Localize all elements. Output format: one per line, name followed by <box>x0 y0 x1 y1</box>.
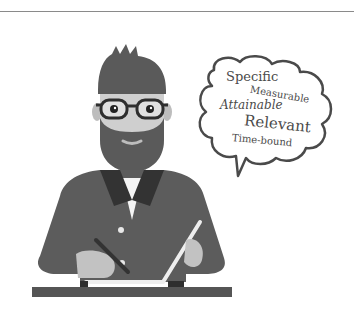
thought-bubble: Specific Measurable Attainable Relevant … <box>200 56 331 176</box>
man-figure <box>38 44 225 287</box>
hair <box>98 44 166 94</box>
smart-attainable: Attainable <box>219 98 283 112</box>
illustration: Specific Measurable Attainable Relevant … <box>0 0 354 312</box>
desk <box>32 287 232 297</box>
smart-specific: Specific <box>226 69 278 84</box>
